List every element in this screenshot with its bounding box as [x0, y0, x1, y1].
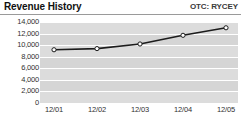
chart-plot-wrapper: 14,00012,00010,0008,0006,0004,0002,0000 … — [0, 18, 241, 121]
y-axis: 14,00012,00010,0008,0006,0004,0002,0000 — [0, 22, 39, 103]
x-axis-tick-label: 12/05 — [217, 105, 235, 114]
page-title: Revenue History — [4, 1, 81, 12]
y-axis-tick-label: 2,000 — [1, 86, 39, 95]
y-axis-tick-label: 14,000 — [1, 17, 39, 26]
data-point-marker[interactable] — [138, 42, 142, 46]
ticker-symbol-label: OTC: RYCEY — [190, 2, 238, 11]
data-point-marker[interactable] — [224, 26, 228, 30]
x-axis: 12/0112/0212/0312/0412/05 — [40, 105, 238, 119]
header-divider — [0, 14, 241, 15]
y-axis-tick-label: 4,000 — [1, 75, 39, 84]
series-markers — [52, 26, 228, 52]
y-axis-tick-label: 0 — [1, 98, 39, 107]
x-axis-tick-label: 12/01 — [45, 105, 63, 114]
y-axis-tick-label: 6,000 — [1, 63, 39, 72]
x-axis-tick-label: 12/03 — [131, 105, 149, 114]
y-axis-tick-label: 12,000 — [1, 29, 39, 38]
widget-header: Revenue History OTC: RYCEY — [0, 0, 241, 16]
data-point-marker[interactable] — [181, 33, 185, 37]
y-axis-tick-label: 10,000 — [1, 40, 39, 49]
data-point-marker[interactable] — [95, 47, 99, 51]
y-axis-tick-label: 8,000 — [1, 52, 39, 61]
revenue-history-chart-widget: Revenue History OTC: RYCEY 14,00012,0001… — [0, 0, 241, 121]
x-axis-tick-label: 12/02 — [88, 105, 106, 114]
revenue-line-series — [40, 22, 238, 103]
plot-area — [40, 22, 238, 103]
data-point-marker[interactable] — [52, 48, 56, 52]
x-axis-tick-label: 12/04 — [174, 105, 192, 114]
